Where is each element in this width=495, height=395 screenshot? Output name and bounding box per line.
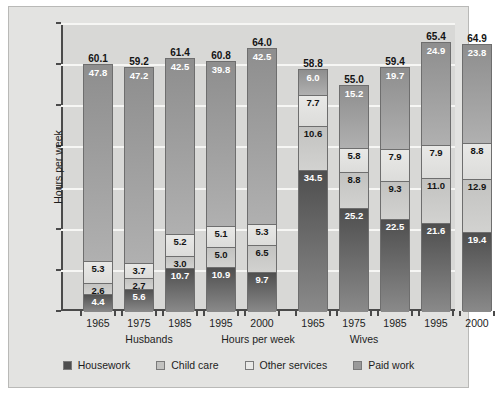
stacked-bar: 59.247.23.72.75.6 — [124, 67, 154, 311]
segment-value-label: 47.2 — [130, 70, 149, 81]
legend-item: Housework — [63, 359, 131, 371]
legend-label: Housework — [78, 359, 131, 371]
bar-segment: 5.3 — [84, 261, 112, 283]
segment-value-label: 15.2 — [345, 88, 364, 99]
x-tick-mark — [121, 311, 123, 316]
x-tick-mark — [244, 311, 246, 316]
stacked-bar: 58.86.07.710.634.5 — [298, 69, 328, 311]
bar-segment: 24.9 — [422, 43, 450, 145]
bar-segment: 5.1 — [207, 226, 235, 247]
bar-total-label: 59.2 — [129, 56, 148, 67]
segment-value-label: 8.8 — [470, 145, 483, 156]
bar-segment: 5.2 — [166, 234, 194, 255]
bar-segment: 6.0 — [299, 70, 327, 95]
bar-segment: 7.9 — [422, 145, 450, 178]
segment-value-label: 5.3 — [91, 263, 104, 274]
segment-value-label: 39.8 — [212, 64, 231, 75]
bar-segment: 21.6 — [422, 223, 450, 312]
chart-panel: 010203040506070 Hours per week 60.147.85… — [8, 6, 469, 388]
bar-segment: 10.6 — [299, 126, 327, 170]
x-tick-label: 1965 — [86, 317, 109, 329]
x-tick-mark — [203, 311, 205, 316]
stacked-bar: 60.839.85.15.010.9 — [206, 61, 236, 311]
segment-value-label: 4.4 — [91, 296, 104, 307]
segment-divider — [125, 278, 153, 279]
x-tick-mark — [80, 311, 82, 316]
legend-item: Child care — [156, 359, 218, 371]
x-tick-mark — [155, 311, 157, 316]
x-tick-label: 2000 — [250, 317, 273, 329]
legend-swatch-icon — [63, 361, 72, 370]
segment-divider — [340, 148, 368, 149]
bar-total-label: 65.4 — [426, 31, 445, 42]
legend-swatch-icon — [353, 361, 362, 370]
y-tick-mark — [56, 104, 61, 106]
y-tick-mark — [56, 22, 61, 24]
stacked-bar: 60.147.85.32.64.4 — [83, 64, 113, 311]
segment-divider — [422, 223, 450, 224]
segment-value-label: 24.9 — [427, 45, 446, 56]
stacked-bar: 61.442.55.23.010.7 — [165, 58, 195, 311]
segment-divider — [463, 232, 491, 233]
x-tick-label: 1995 — [424, 317, 447, 329]
bar-segment: 42.5 — [248, 49, 276, 224]
y-tick-mark — [56, 269, 61, 271]
bar-segment: 15.2 — [340, 86, 368, 149]
bar-total-label: 55.0 — [344, 74, 363, 85]
x-tick-label: 1975 — [127, 317, 150, 329]
bar-total-label: 58.8 — [303, 58, 322, 69]
bar-segment: 3.7 — [125, 263, 153, 278]
x-tick-label: 1995 — [209, 317, 232, 329]
plot-wrapper: 010203040506070 Hours per week 60.147.85… — [61, 23, 455, 311]
x-tick-mark — [295, 311, 297, 316]
segment-divider — [207, 226, 235, 227]
legend-label: Paid work — [368, 359, 414, 371]
stacked-bar: 55.015.25.88.825.2 — [339, 85, 369, 311]
x-tick-mark — [459, 311, 461, 316]
x-tick-mark — [377, 311, 379, 316]
segment-divider — [381, 181, 409, 182]
segment-divider — [166, 268, 194, 269]
segment-value-label: 6.5 — [255, 247, 268, 258]
segment-value-label: 11.0 — [427, 180, 445, 191]
bar-segment: 6.5 — [248, 245, 276, 272]
segment-divider — [248, 272, 276, 273]
x-tick-mark — [196, 311, 198, 316]
bar-segment: 39.8 — [207, 62, 235, 226]
x-tick-mark — [452, 311, 454, 316]
legend-swatch-icon — [245, 361, 254, 370]
gridline — [61, 23, 455, 25]
segment-divider — [463, 179, 491, 180]
bar-segment: 9.3 — [381, 181, 409, 219]
group-label: Husbands — [125, 333, 172, 345]
bar-segment: 5.0 — [207, 247, 235, 268]
x-tick-mark — [278, 311, 280, 316]
stacked-bar: 59.419.77.99.322.5 — [380, 67, 410, 311]
bar-total-label: 60.8 — [211, 50, 230, 61]
group-label: Wives — [350, 333, 379, 345]
x-tick-label: 1965 — [301, 317, 324, 329]
bar-segment: 2.6 — [84, 283, 112, 294]
segment-divider — [422, 145, 450, 146]
stacked-bar: 64.923.88.812.919.4 — [462, 44, 492, 311]
bar-total-label: 60.1 — [88, 53, 107, 64]
bar-segment: 12.9 — [463, 179, 491, 232]
bar-segment: 8.8 — [463, 143, 491, 179]
bar-segment: 5.8 — [340, 148, 368, 172]
segment-value-label: 5.0 — [214, 249, 227, 260]
segment-value-label: 7.9 — [429, 147, 442, 158]
bar-segment: 10.9 — [207, 267, 235, 312]
x-axis: Hours per week 19651975198519952000Husba… — [61, 311, 455, 361]
x-tick-mark — [411, 311, 413, 316]
bar-segment: 19.7 — [381, 68, 409, 149]
bar-segment: 3.0 — [166, 256, 194, 268]
segment-value-label: 10.7 — [171, 270, 190, 281]
x-tick-mark — [237, 311, 239, 316]
segment-value-label: 42.5 — [253, 51, 272, 62]
segment-value-label: 25.2 — [345, 210, 364, 221]
bar-segment: 22.5 — [381, 219, 409, 312]
segment-value-label: 47.8 — [89, 67, 108, 78]
bar-segment: 2.7 — [125, 278, 153, 289]
segment-value-label: 5.1 — [214, 228, 227, 239]
